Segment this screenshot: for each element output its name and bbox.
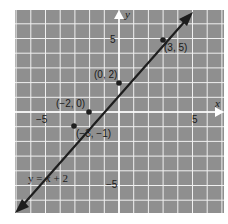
point-label-3-5: (3, 5) (164, 43, 187, 53)
point-label-0-2: (0, 2) (94, 70, 117, 80)
equation-label: y = x + 2 (28, 173, 68, 184)
tick-y-neg5: −5 (106, 180, 117, 190)
point-label-neg2-0: (−2, 0) (56, 99, 85, 109)
y-axis-label: y (125, 9, 130, 20)
tick-x-5: 5 (192, 115, 198, 125)
point-label-neg3-neg1: (−3, −1) (76, 129, 111, 139)
point-neg2-0 (86, 109, 92, 115)
tick-y-5: 5 (110, 35, 116, 45)
tick-x-neg5: −5 (36, 115, 47, 125)
point-0-2 (116, 80, 122, 86)
x-axis-label: x (215, 98, 220, 109)
